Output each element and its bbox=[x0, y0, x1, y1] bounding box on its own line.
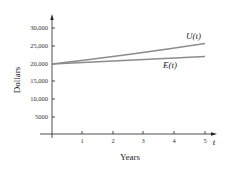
x-ticks bbox=[82, 131, 205, 134]
x-axis-title: Years bbox=[120, 152, 141, 162]
x-axis-arrow-icon bbox=[211, 132, 217, 135]
y-tick-label: 5000 bbox=[35, 113, 48, 120]
y-tick-label: 25,000 bbox=[30, 42, 48, 49]
y-tick-label: 15,000 bbox=[30, 77, 48, 84]
y-tick-label: 20,000 bbox=[30, 60, 48, 67]
y-ticks bbox=[52, 28, 55, 117]
x-axis-variable: t bbox=[213, 137, 216, 147]
y-axis-arrow-icon bbox=[50, 14, 53, 20]
series-e-line bbox=[52, 57, 205, 65]
x-tick-label: 5 bbox=[203, 137, 206, 144]
y-axis-title: Dollars bbox=[12, 66, 22, 93]
x-tick-label: 2 bbox=[111, 137, 114, 144]
series-u-label: U(t) bbox=[186, 31, 201, 41]
y-tick-label: 30,000 bbox=[30, 24, 48, 31]
x-tick-label: 1 bbox=[80, 137, 83, 144]
x-tick-label: 4 bbox=[172, 137, 176, 144]
y-tick-label: 10,000 bbox=[30, 95, 48, 102]
series-e-label: E(t) bbox=[162, 60, 177, 70]
x-tick-label: 3 bbox=[141, 137, 144, 144]
chart: 5000 10,000 15,000 20,000 25,000 30,000 … bbox=[0, 0, 228, 171]
